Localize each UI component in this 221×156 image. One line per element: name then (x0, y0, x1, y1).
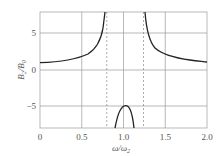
x-tick-1-0: 1.0 (118, 132, 130, 142)
y-tick-0: 0 (32, 65, 37, 75)
curve-middle-branch (115, 106, 134, 128)
x-tick-2-0: 2.0 (201, 132, 213, 142)
y-tick-5: 5 (32, 28, 37, 38)
x-axis-label: ω/ω2 (112, 143, 130, 154)
curve-right-branch (145, 12, 207, 62)
y-axis-label: B2/B0 (16, 60, 27, 80)
grid (40, 12, 207, 128)
x-tick-1-5: 1.5 (160, 132, 172, 142)
x-tick-0: 0 (38, 132, 43, 142)
y-tick-minus5: −5 (26, 101, 36, 111)
curve-left-branch (40, 12, 105, 63)
x-tick-0-5: 0.5 (76, 132, 88, 142)
chart: 5 0 −5 0 0.5 1.0 1.5 2.0 ω/ω2 B2/B0 (0, 0, 221, 156)
